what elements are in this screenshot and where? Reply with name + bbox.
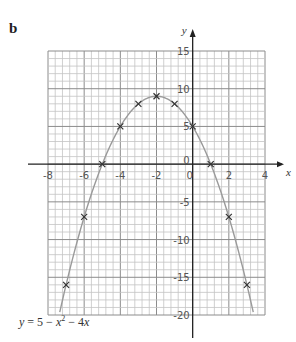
x-axis-label: x [285,166,291,178]
equation-annotation: y = 5 − x2 − 4x [19,314,89,330]
x-tick-label: 0 [186,170,192,181]
y-tick-label: 10 [177,84,190,95]
y-tick-label: 5 [183,121,189,132]
x-tick-label: 4 [262,170,268,181]
x-tick-label: 2 [226,170,232,181]
x-tick-label: -2 [152,170,162,181]
y-axis-label: y [181,24,187,36]
y-tick-label: -10 [173,235,189,246]
y-axis-arrow-icon [190,29,196,37]
x-axis-arrow-icon [277,161,284,167]
x-tick-label: -8 [43,170,53,181]
y-tick-label: -15 [173,272,189,283]
x-tick-label: -6 [79,170,89,181]
x-tick-label: -4 [115,170,125,181]
parabola-chart: xy-8-6-4-2024151050-5-10-15-20 [0,0,296,342]
y-tick-label: -5 [180,197,190,208]
y-tick-label: 15 [177,46,190,57]
y-tick-label: -20 [173,310,189,321]
y-tick-label: 0 [183,155,189,166]
